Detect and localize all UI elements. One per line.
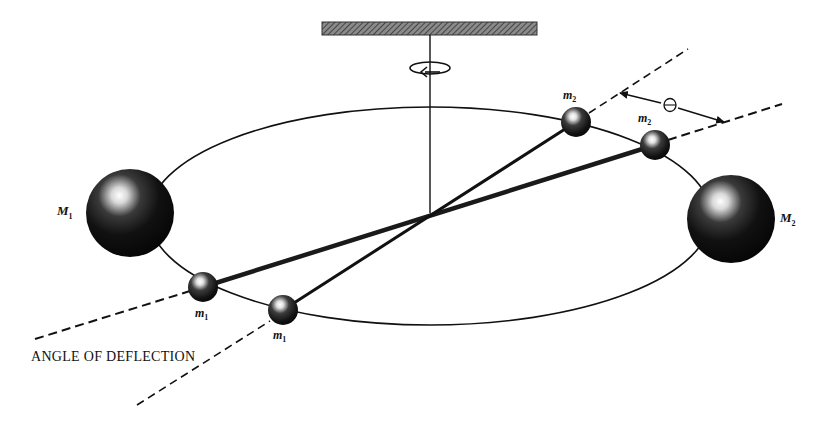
label-M1: M1 [57, 203, 73, 221]
small-mass-m2-equilibrium [640, 130, 670, 160]
equilibrium-line-left [35, 291, 190, 339]
angle-of-deflection-caption: ANGLE OF DEFLECTION [31, 349, 195, 365]
small-mass-m1-deflected [268, 295, 298, 325]
small-mass-m2-deflected [561, 107, 591, 137]
label-m2-deflected: m2 [563, 88, 576, 104]
label-M2: M2 [780, 210, 796, 228]
deflection-angle-arrow [620, 93, 724, 122]
label-m2-equilibrium: m2 [638, 111, 651, 127]
large-mass-M2 [687, 175, 775, 263]
small-mass-m1-equilibrium [188, 272, 218, 302]
label-m1-deflected: m1 [273, 328, 286, 344]
diagram-canvas [0, 0, 825, 435]
ceiling-support [322, 22, 537, 35]
equilibrium-line-right [668, 104, 782, 140]
torsion-balance-diagram: M1 M2 m1 m1 m2 m2 ANGLE OF DEFLECTION [0, 0, 825, 435]
label-m1-equilibrium: m1 [195, 306, 208, 322]
large-mass-M1 [86, 169, 174, 257]
